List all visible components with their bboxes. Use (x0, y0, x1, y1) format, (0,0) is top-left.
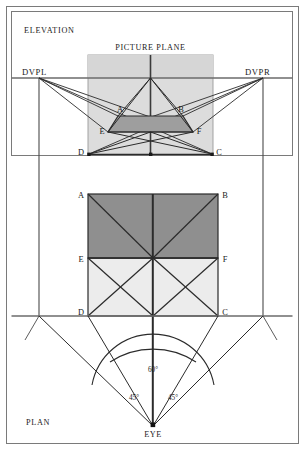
elevation-title: ELEVATION (24, 26, 75, 35)
angle-label-45-left: 45° (129, 394, 139, 402)
picture-plane-label: PICTURE PLANE (115, 43, 185, 52)
plan-vertex-f: F (223, 255, 228, 264)
angle-label-45-right: 45° (168, 394, 178, 402)
dvpl-label: DVPL (22, 67, 47, 77)
elevation-vertex-a: A (117, 105, 123, 114)
angle-label-60: 60° (148, 366, 158, 374)
plan-vertex-d: D (78, 308, 84, 317)
plan-vertex-a: A (78, 191, 84, 200)
cone-45-extensions (25, 316, 277, 340)
perspective-construction-figure: ELEVATION PICTURE PLANE DVPL DVPR A B E … (0, 0, 305, 450)
elevation-top-face (108, 116, 193, 132)
plan-vertex-b: B (222, 191, 228, 200)
dvpr-label: DVPR (245, 67, 270, 77)
figure-svg: ELEVATION PICTURE PLANE DVPL DVPR A B E … (0, 0, 305, 450)
plan-vertex-c: C (222, 308, 228, 317)
cone-60-left (88, 316, 153, 426)
plan-vertex-e: E (78, 255, 83, 264)
elevation-vertex-d: D (78, 148, 84, 157)
elevation-vertex-b: B (178, 105, 184, 114)
plan-title: PLAN (26, 418, 50, 427)
eye-label: EYE (144, 430, 161, 439)
elevation-vertex-e: E (99, 127, 104, 136)
elevation-vertex-f: F (197, 127, 202, 136)
elevation-vertex-c: C (216, 148, 222, 157)
eye-point-marker (151, 423, 156, 428)
